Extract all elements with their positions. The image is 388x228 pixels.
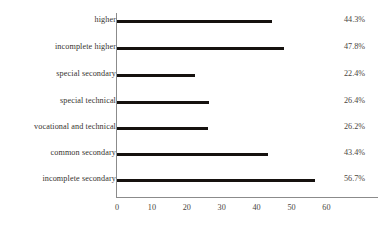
category-label: vocational and technical — [34, 122, 116, 132]
category-label: special technical — [60, 96, 116, 106]
value-label: 44.3% — [344, 15, 384, 25]
bar — [117, 101, 209, 104]
bar — [117, 20, 272, 23]
x-tick-label: 40 — [245, 203, 269, 213]
category-label: incomplete secondary — [42, 174, 116, 184]
value-label: 26.4% — [344, 96, 384, 106]
y-axis-line — [116, 13, 117, 198]
x-tick-label: 10 — [140, 203, 164, 213]
bar — [117, 47, 284, 50]
category-label: common secondary — [51, 148, 117, 158]
category-label: special secondary — [56, 69, 116, 79]
bar — [117, 153, 268, 156]
value-label: 26.2% — [344, 122, 384, 132]
value-label: 22.4% — [344, 69, 384, 79]
category-label: higher — [94, 15, 116, 25]
x-tick-label: 30 — [210, 203, 234, 213]
x-tick-label: 50 — [280, 203, 304, 213]
value-label: 47.8% — [344, 42, 384, 52]
x-axis-line — [116, 197, 378, 198]
bar — [117, 179, 315, 182]
bar-chart: higher incomplete higher special seconda… — [0, 0, 388, 228]
value-label: 43.4% — [344, 148, 384, 158]
category-label: incomplete higher — [55, 42, 116, 52]
value-label: 56.7% — [344, 174, 384, 184]
x-tick-label: 20 — [175, 203, 199, 213]
bar — [117, 127, 208, 130]
x-tick-label: 0 — [105, 203, 129, 213]
x-tick-label: 60 — [314, 203, 338, 213]
bar — [117, 74, 195, 77]
